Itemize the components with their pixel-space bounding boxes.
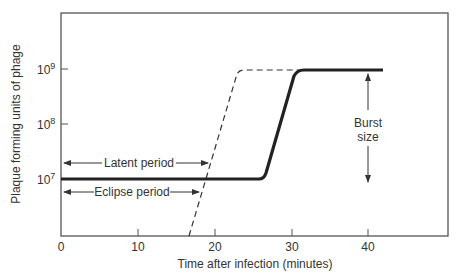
- y-tick-label-1e7: 107: [37, 171, 55, 187]
- latent-period-label: Latent period: [104, 156, 174, 170]
- latent-period-annotation: Latent period: [64, 156, 208, 170]
- x-tick-label-0: 0: [58, 240, 65, 254]
- x-axis-ticks: [138, 229, 368, 236]
- burst-size-label-line2: size: [357, 130, 379, 144]
- eclipse-period-annotation: Eclipse period: [64, 185, 199, 199]
- x-tick-label-40: 40: [361, 240, 375, 254]
- x-axis-labels: 0 10 20 30 40: [58, 240, 375, 254]
- x-axis-title: Time after infection (minutes): [178, 257, 333, 271]
- x-tick-label-30: 30: [285, 240, 299, 254]
- burst-size-annotation: Burst size: [354, 74, 383, 182]
- plot-frame: [61, 13, 448, 236]
- y-axis-labels: 109 108 107: [37, 61, 55, 187]
- y-tick-label-1e8: 108: [37, 116, 55, 132]
- y-tick-label-1e9: 109: [37, 61, 55, 77]
- x-tick-label-10: 10: [131, 240, 145, 254]
- eclipse-period-label: Eclipse period: [94, 185, 169, 199]
- phage-growth-chart: 109 108 107 0 10 20 30 40 Time after inf…: [0, 0, 461, 278]
- y-axis-title: Plaque forming units of phage: [9, 44, 23, 204]
- dashed-curve-intracellular: [189, 70, 300, 236]
- burst-size-label-line1: Burst: [354, 116, 383, 130]
- x-tick-label-20: 20: [208, 240, 222, 254]
